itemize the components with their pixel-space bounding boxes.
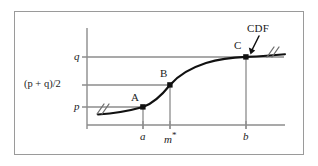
point-label-b: B [160,68,167,79]
cdf-annotation-label: CDF [247,23,269,34]
marker-point-b [167,82,172,87]
marker-point-a [140,104,145,109]
x-axis-label-b: b [243,131,249,142]
x-axis-label-m: m [164,133,172,145]
x-axis-label-star: * [172,130,177,140]
x-axis-label-m-star: m* [164,131,176,145]
y-axis-label-midpoint: (p + q)/2 [24,79,61,90]
point-label-a: A [131,92,139,103]
x-axis-label-a: a [140,131,146,142]
figure-root: q (p + q)/2 p a m* b A B C CDF [0,0,318,166]
marker-point-c [243,54,248,59]
point-label-c: C [234,40,241,51]
break-mark-left-icon [97,104,109,114]
y-axis-label-p: p [74,101,80,112]
y-axis-label-q: q [74,51,80,62]
cdf-annotation-arrow-icon [249,36,259,55]
